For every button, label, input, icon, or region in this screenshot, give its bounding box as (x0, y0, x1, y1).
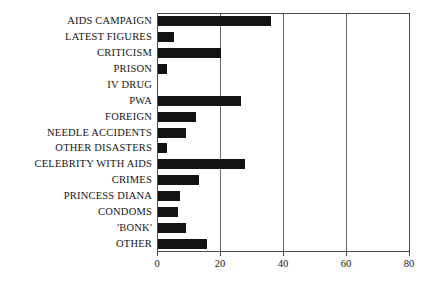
category-label: NEEDLE ACCIDENTS (0, 127, 152, 138)
x-tick-mark (283, 252, 284, 256)
x-axis: 020406080 (157, 252, 410, 282)
category-label: CRITICISM (0, 47, 152, 58)
category-label: LATEST FIGURES (0, 31, 152, 42)
x-tick-label: 80 (404, 258, 415, 270)
category-label: IV DRUG (0, 79, 152, 90)
x-tick-label: 40 (278, 258, 289, 270)
category-label: 'BONK' (0, 222, 152, 233)
bar (158, 32, 174, 42)
bar (158, 143, 167, 153)
category-label: FOREIGN (0, 111, 152, 122)
bar (158, 128, 186, 138)
bar (158, 96, 241, 106)
category-label: CRIMES (0, 174, 152, 185)
bar (158, 112, 196, 122)
x-tick-mark (409, 252, 410, 256)
category-label: PWA (0, 95, 152, 106)
bar (158, 239, 207, 249)
y-axis-category-labels: AIDS CAMPAIGNLATEST FIGURESCRITICISMPRIS… (0, 13, 152, 252)
bar-chart: AIDS CAMPAIGNLATEST FIGURESCRITICISMPRIS… (0, 0, 436, 284)
bar (158, 191, 180, 201)
x-tick-label: 0 (154, 258, 159, 270)
category-label: PRINCESS DIANA (0, 190, 152, 201)
bar (158, 223, 186, 233)
bar (158, 159, 245, 169)
bar (158, 175, 199, 185)
x-tick-mark (157, 252, 158, 256)
x-tick-mark (346, 252, 347, 256)
bars-layer (158, 13, 410, 252)
bar (158, 207, 178, 217)
bar (158, 64, 167, 74)
category-label: CONDOMS (0, 206, 152, 217)
category-label: CELEBRITY WITH AIDS (0, 158, 152, 169)
x-tick-label: 20 (215, 258, 226, 270)
x-tick-label: 60 (341, 258, 352, 270)
x-tick-mark (220, 252, 221, 256)
bar (158, 48, 221, 58)
category-label: AIDS CAMPAIGN (0, 15, 152, 26)
category-label: OTHER DISASTERS (0, 142, 152, 153)
category-label: OTHER (0, 238, 152, 249)
category-label: PRISON (0, 63, 152, 74)
bar (158, 16, 271, 26)
